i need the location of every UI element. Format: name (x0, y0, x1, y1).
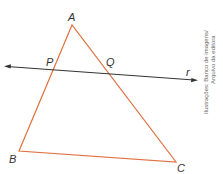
line-r (7, 67, 194, 81)
label-p: P (46, 56, 54, 68)
label-r: r (186, 66, 191, 78)
arrowhead-right-icon (191, 78, 198, 82)
label-b: B (9, 153, 16, 165)
label-a: A (67, 11, 75, 23)
label-c: C (177, 162, 185, 174)
credit-line-2: Arquivo da editora (210, 35, 216, 84)
diagram: A P Q r B C (0, 0, 223, 174)
label-q: Q (106, 56, 115, 68)
credit-line-1: Ilustrações: Banco de imagens/ (203, 30, 209, 114)
image-credit: Ilustrações: Banco de imagens/ Arquivo d… (200, 4, 220, 116)
triangle-abc (19, 25, 176, 162)
arrowhead-left-icon (4, 64, 11, 68)
